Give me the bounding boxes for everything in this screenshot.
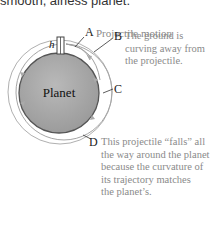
callout-d-letter: D bbox=[89, 135, 98, 150]
callout-a-letter: A bbox=[85, 25, 94, 40]
callout-c-letter: C bbox=[114, 82, 122, 97]
callout-b-letter: B bbox=[114, 29, 122, 44]
planet-label: Planet bbox=[43, 85, 76, 100]
height-label: h bbox=[49, 38, 55, 50]
callout-d-text: This projectile “falls” all the way arou… bbox=[101, 136, 209, 199]
callout-b-text: The ground is curving away from the proj… bbox=[125, 30, 205, 68]
